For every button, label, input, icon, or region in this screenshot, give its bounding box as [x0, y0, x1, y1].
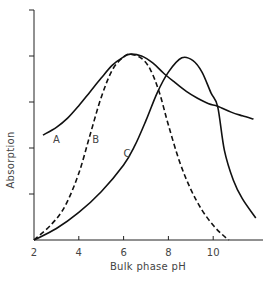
absorption-vs-ph-chart: 246810 Absorption Bulk phase pH ABC [0, 0, 275, 285]
y-axis [29, 10, 34, 240]
x-tick-label: 10 [207, 247, 220, 258]
curve-label-a: A [53, 134, 60, 145]
y-axis-title: Absorption [5, 131, 16, 188]
x-tick-label: 4 [76, 247, 82, 258]
curves [34, 54, 256, 240]
curve-a [43, 54, 254, 135]
x-tick-label: 2 [31, 247, 37, 258]
curve-labels: ABC [53, 134, 131, 159]
curve-label-c: C [124, 148, 131, 159]
x-tick-label: 6 [120, 247, 126, 258]
x-axis-title: Bulk phase pH [110, 261, 186, 272]
curve-b [34, 54, 229, 240]
curve-label-b: B [92, 134, 99, 145]
curve-c [34, 57, 256, 240]
x-tick-label: 8 [165, 247, 171, 258]
x-axis: 246810 [31, 236, 263, 258]
